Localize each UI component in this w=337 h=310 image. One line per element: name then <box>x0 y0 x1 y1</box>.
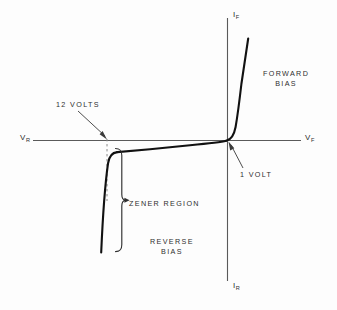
zener-curve-svg <box>0 0 337 310</box>
knee-voltage-label: 1 VOLT <box>240 170 272 180</box>
forward-bias-curve <box>226 39 248 141</box>
reverse-bias-label: REVERSEBIAS <box>150 237 194 257</box>
zener-breakdown-curve <box>101 152 117 252</box>
axis-label-forward-current-subscript: F <box>236 14 239 20</box>
zener-region-label: ZENER REGION <box>129 199 200 209</box>
axis-label-reverse-voltage-subscript: R <box>26 137 30 143</box>
axis-label-reverse-voltage: VR <box>20 133 30 145</box>
axis-label-forward-voltage-subscript: F <box>311 137 314 143</box>
zener-characteristic-figure: VR VF IF IR 12 VOLTS 1 VOLT ZENER REGION… <box>0 0 337 310</box>
reverse-bias-label-line2: BIAS <box>161 247 183 256</box>
axis-label-forward-current: IF <box>233 10 239 22</box>
breakdown-voltage-label: 12 VOLTS <box>56 100 100 110</box>
reverse-bias-label-line1: REVERSE <box>150 237 194 246</box>
forward-bias-label-line1: FORWARD <box>263 69 309 78</box>
forward-bias-label-line2: BIAS <box>275 79 297 88</box>
axis-label-reverse-current-subscript: R <box>236 285 240 291</box>
axis-label-forward-voltage: VF <box>305 133 314 145</box>
forward-bias-label: FORWARDBIAS <box>263 69 309 89</box>
twelve-volts-leader-line <box>78 111 105 136</box>
axis-label-reverse-current: IR <box>233 281 240 293</box>
zener-region-brace <box>116 149 126 252</box>
reverse-leakage-curve <box>117 141 226 152</box>
